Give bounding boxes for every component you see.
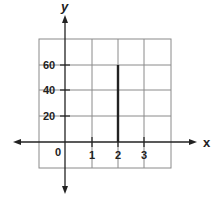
x-axis-label: x [203, 135, 211, 150]
y-tick-label-40: 40 [43, 84, 55, 96]
x-tick-label-3: 3 [141, 149, 147, 161]
coordinate-plane: y x 60 40 20 0 1 2 3 [0, 0, 218, 211]
x-tick-label-2: 2 [115, 149, 121, 161]
y-axis [62, 15, 68, 194]
y-axis-label: y [60, 0, 69, 14]
origin-label: 0 [55, 146, 61, 158]
x-tick-label-1: 1 [89, 149, 95, 161]
x-axis [13, 139, 197, 145]
y-tick-label-60: 60 [43, 59, 55, 71]
y-tick-label-20: 20 [43, 110, 55, 122]
